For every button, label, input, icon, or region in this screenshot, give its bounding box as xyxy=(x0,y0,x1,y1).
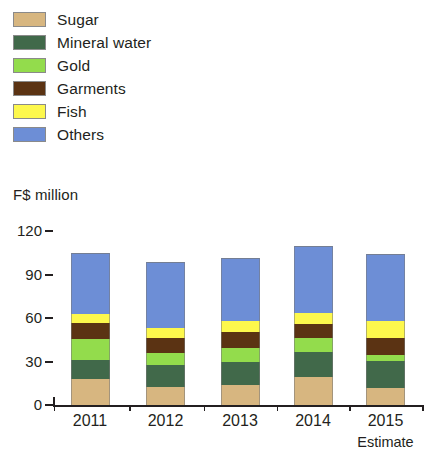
y-tick-mark xyxy=(45,274,53,276)
y-tick-label: 120 xyxy=(2,222,42,239)
bar-segment-others xyxy=(71,253,110,314)
bar-segment-mineral-water xyxy=(366,361,405,388)
bar-segment-garments xyxy=(146,338,185,354)
y-tick-label: 90 xyxy=(2,266,42,283)
bar-2013 xyxy=(221,258,260,405)
x-tick-mark xyxy=(277,405,279,411)
x-tick-label-2014: 2014 xyxy=(283,412,343,430)
stacked-bar-chart-figure: Sugar Mineral water Gold Garments Fish O… xyxy=(0,0,426,460)
x-tick-label-2011: 2011 xyxy=(60,412,120,430)
bar-segment-sugar xyxy=(366,388,405,405)
bar-segment-gold xyxy=(294,338,333,351)
bar-segment-others xyxy=(294,246,333,314)
bar-segment-mineral-water xyxy=(71,360,110,379)
y-tick-label: 0 xyxy=(2,396,42,413)
x-tick-label-2013: 2013 xyxy=(210,412,270,430)
bar-segment-fish xyxy=(146,328,185,338)
bar-segment-garments xyxy=(71,323,110,339)
y-tick-mark xyxy=(45,361,53,363)
x-tick-mark xyxy=(54,405,56,411)
bar-2014 xyxy=(294,246,333,405)
bar-segment-mineral-water xyxy=(294,352,333,377)
y-tick-label: 60 xyxy=(2,309,42,326)
bar-segment-fish xyxy=(71,314,110,323)
x-tick-label-2012: 2012 xyxy=(136,412,196,430)
bar-segment-others xyxy=(146,262,185,327)
bar-2015 xyxy=(366,254,405,405)
bar-segment-fish xyxy=(294,313,333,324)
bar-segment-garments xyxy=(366,338,405,355)
bar-segment-gold xyxy=(221,348,260,361)
bar-segment-mineral-water xyxy=(146,365,185,387)
estimate-note: Estimate xyxy=(346,434,426,450)
y-tick-label: 30 xyxy=(2,353,42,370)
x-tick-mark xyxy=(422,405,424,411)
bar-segment-mineral-water xyxy=(221,362,260,385)
x-tick-mark xyxy=(204,405,206,411)
bar-2012 xyxy=(146,262,185,405)
bar-segment-garments xyxy=(294,324,333,338)
bar-segment-fish xyxy=(366,321,405,338)
y-tick-mark xyxy=(45,404,53,406)
x-tick-label-2015: 2015 xyxy=(356,412,416,430)
bar-segment-fish xyxy=(221,321,260,332)
bar-segment-garments xyxy=(221,332,260,348)
bar-segment-others xyxy=(366,254,405,321)
bar-segment-gold xyxy=(146,353,185,365)
x-tick-mark xyxy=(129,405,131,411)
bar-segment-gold xyxy=(71,339,110,360)
bar-segment-others xyxy=(221,258,260,321)
plot-area: 1209060300 20112012201320142015 Estimate xyxy=(0,0,426,460)
bar-segment-sugar xyxy=(294,377,333,405)
y-tick-mark xyxy=(45,317,53,319)
bar-segment-sugar xyxy=(146,387,185,405)
x-axis-line xyxy=(53,405,423,407)
bar-2011 xyxy=(71,253,110,405)
bar-segment-sugar xyxy=(221,385,260,405)
x-tick-mark xyxy=(349,405,351,411)
bar-segment-sugar xyxy=(71,379,110,405)
y-tick-mark xyxy=(45,230,53,232)
